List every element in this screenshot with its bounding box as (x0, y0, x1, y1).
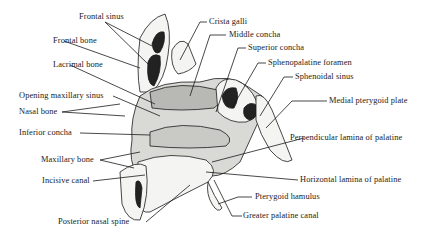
label-lacrimal-bone: Lacrimal bone (53, 60, 103, 70)
label-superior-concha: Superior concha (248, 43, 304, 53)
label-medial-pterygoid-plate: Medial pterygoid plate (329, 96, 407, 106)
label-nasal-bone: Nasal bone (19, 107, 57, 117)
label-frontal-bone: Frontal bone (53, 36, 97, 46)
label-greater-palatine-canal: Greater palatine canal (243, 211, 319, 221)
label-maxillary-bone: Maxillary bone (41, 155, 94, 165)
label-opening-maxillary-sinus: Opening maxillary sinus (19, 91, 104, 101)
label-crista-galli: Crista galli (209, 17, 247, 27)
label-frontal-sinus: Frontal sinus (79, 12, 124, 22)
label-sphenopalatine-foramen: Sphenopalatine foramen (268, 58, 352, 68)
label-pterygoid-hamulus: Pterygoid hamulus (255, 192, 320, 202)
label-perpendicular-lamina-of-palatine: Perpendicular lamina of palatine (290, 133, 402, 143)
label-middle-concha: Middle concha (229, 30, 280, 40)
label-sphenoidal-sinus: Sphenoidal sinus (295, 72, 354, 82)
label-inferior-concha: Inferior concha (19, 128, 72, 138)
label-horizontal-lamina-of-palatine: Horizontal lamina of palatine (300, 175, 401, 185)
label-posterior-nasal-spine: Posterior nasal spine (58, 217, 129, 227)
label-incisive-canal: Incisive canal (42, 176, 90, 186)
